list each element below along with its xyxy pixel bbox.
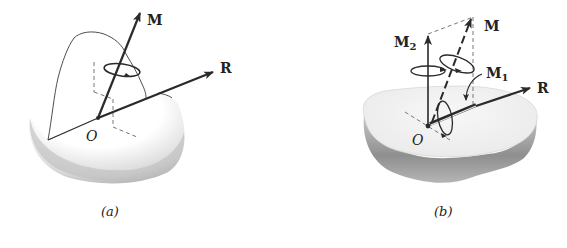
caption-a: (a) <box>101 204 119 219</box>
moment-2-label: M2 <box>394 34 417 52</box>
origin-label: O <box>86 128 98 144</box>
slab-top <box>363 86 537 157</box>
moment-label: M <box>484 18 500 34</box>
origin-point <box>426 124 431 129</box>
moment-1-label: M1 <box>486 65 508 83</box>
resultant-label: R <box>537 80 549 96</box>
resultant-label: R <box>220 60 232 76</box>
caption-b: (b) <box>434 204 452 219</box>
figure-b: M M2 M1 R O (b) <box>363 17 549 219</box>
origin-label: O <box>412 132 424 148</box>
rotation-icon-m2 <box>411 66 447 76</box>
origin-point <box>96 116 100 120</box>
diagram-canvas: M R O (a) <box>0 0 567 248</box>
figure-a: M R O (a) <box>29 12 232 219</box>
moment-label: M <box>147 12 163 28</box>
